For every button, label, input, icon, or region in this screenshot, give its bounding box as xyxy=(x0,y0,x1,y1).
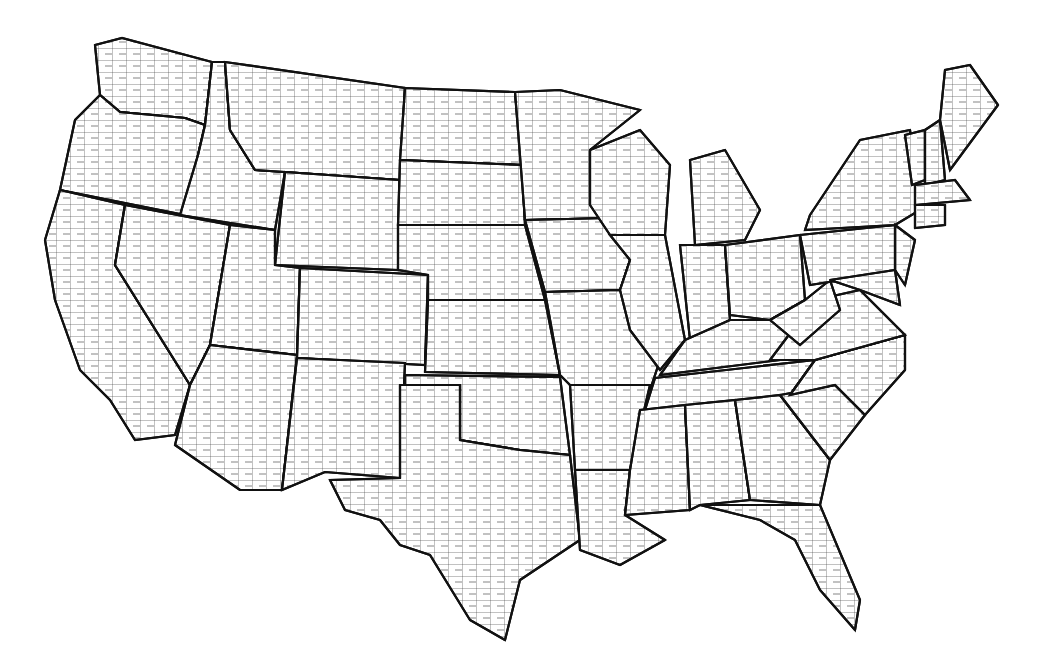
county-lines-wy xyxy=(275,172,400,270)
county-lines-mt xyxy=(225,62,405,180)
county-lines-ks xyxy=(425,300,560,375)
county-lines-sd xyxy=(398,160,525,225)
county-lines-nd xyxy=(400,88,522,165)
us-county-map xyxy=(0,0,1043,671)
state-boundaries xyxy=(45,38,998,640)
county-lines-fl xyxy=(700,505,860,630)
county-lines-nm xyxy=(282,358,405,490)
county-lines-co xyxy=(297,268,428,365)
county-lines-ny xyxy=(805,130,920,230)
